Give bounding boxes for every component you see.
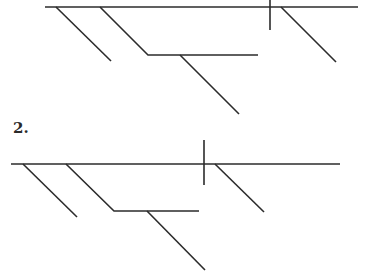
modifier-line-left [23, 164, 77, 217]
modifier-line-right [281, 7, 336, 62]
sentence-diagrams-canvas [0, 0, 366, 274]
diagram-2 [11, 140, 340, 270]
prepositional-phrase-stem [100, 7, 258, 55]
phrase-modifier-line [147, 211, 205, 270]
prepositional-phrase-stem [66, 164, 199, 211]
modifier-line-right [215, 164, 264, 212]
modifier-line-left [56, 7, 111, 61]
phrase-modifier-line [180, 55, 239, 114]
diagram-number-label: 2. [13, 121, 29, 136]
diagram-1 [45, 0, 358, 114]
